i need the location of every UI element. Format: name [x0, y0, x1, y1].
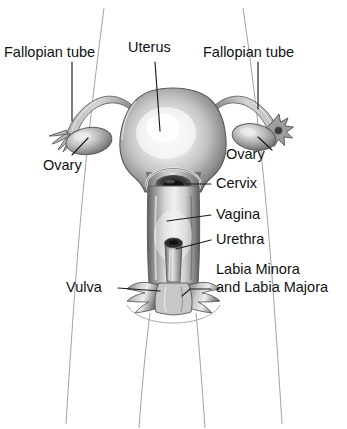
- label-ovary-right: Ovary: [226, 146, 265, 163]
- label-uterus: Uterus: [128, 39, 171, 56]
- label-labia-minora: Labia Minora: [216, 261, 300, 278]
- label-ovary-left: Ovary: [43, 157, 82, 174]
- label-vulva: Vulva: [66, 279, 102, 296]
- label-fallopian-tube-right: Fallopian tube: [203, 44, 294, 61]
- urethra: [165, 238, 183, 282]
- anatomy-figure: Fallopian tube Uterus Fallopian tube Ova…: [0, 0, 347, 429]
- label-vagina: Vagina: [216, 206, 260, 223]
- anatomy-illustration: [0, 0, 347, 429]
- label-cervix: Cervix: [216, 175, 257, 192]
- labia-minora: [155, 283, 192, 315]
- label-labia-majora: and Labia Majora: [216, 279, 328, 296]
- label-fallopian-tube-left: Fallopian tube: [4, 44, 95, 61]
- label-urethra: Urethra: [216, 231, 264, 248]
